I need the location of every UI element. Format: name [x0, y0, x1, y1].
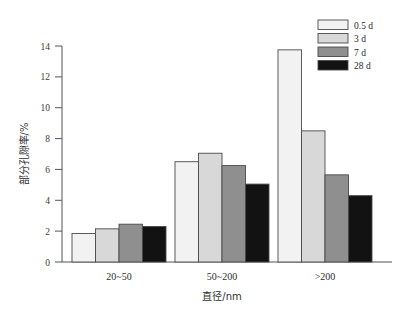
bar — [302, 131, 326, 262]
legend-label: 7 d — [354, 48, 366, 58]
y-tick-label: 2 — [45, 227, 50, 237]
x-axis-category-labels: 20~50 50~200 >200 — [106, 271, 335, 282]
legend-swatch — [318, 61, 348, 71]
bar — [143, 227, 167, 262]
bar — [72, 233, 96, 262]
legend-label: 0.5 d — [354, 21, 373, 31]
y-tick-label: 14 — [41, 42, 51, 52]
bar — [325, 175, 349, 262]
x-category-label: 20~50 — [106, 271, 131, 282]
y-tick-label: 8 — [45, 134, 50, 144]
legend-label: 28 d — [354, 61, 371, 71]
bar — [349, 196, 373, 262]
bar — [278, 50, 302, 262]
x-axis-title: 直径/nm — [202, 290, 241, 302]
bar-chart: 0 2 4 6 8 10 12 14 20~50 50~200 >200 直径/… — [0, 0, 412, 315]
chart-canvas: 0 2 4 6 8 10 12 14 20~50 50~200 >200 直径/… — [0, 0, 412, 315]
y-axis-title: 部分孔隙率/% — [18, 123, 30, 186]
bar — [119, 224, 143, 262]
bar — [246, 184, 270, 262]
bar — [222, 166, 246, 262]
y-tick-label: 12 — [41, 72, 51, 82]
legend-swatch — [318, 47, 348, 57]
legend-label: 3 d — [354, 34, 366, 44]
legend-swatch — [318, 20, 348, 30]
y-tick-label: 0 — [45, 258, 50, 268]
bars-layer — [72, 50, 372, 262]
y-tick-label: 10 — [41, 103, 51, 113]
y-axis-ticks: 0 2 4 6 8 10 12 14 — [41, 42, 63, 268]
x-category-label: 50~200 — [207, 271, 237, 282]
y-tick-label: 6 — [45, 165, 50, 175]
x-category-label: >200 — [315, 271, 336, 282]
legend-swatch — [318, 34, 348, 44]
chart-legend: 0.5 d3 d7 d28 d — [318, 20, 373, 71]
y-tick-label: 4 — [45, 196, 50, 206]
bar — [199, 153, 223, 262]
bar — [175, 162, 199, 262]
bar — [96, 229, 120, 262]
